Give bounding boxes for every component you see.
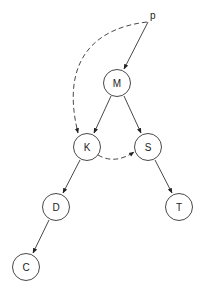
- edge-M-S: [124, 96, 141, 133]
- edge-K-S-dashed: [98, 152, 134, 159]
- node-M: M: [104, 70, 131, 97]
- pointer-label: p: [150, 10, 156, 21]
- svg-text:K: K: [84, 142, 91, 153]
- edge-M-K: [94, 96, 111, 133]
- edge-K-D: [63, 160, 80, 193]
- node-S: S: [135, 134, 162, 161]
- svg-text:S: S: [145, 142, 152, 153]
- svg-text:M: M: [113, 78, 121, 89]
- node-D: D: [43, 194, 70, 221]
- svg-text:C: C: [22, 262, 29, 273]
- svg-text:T: T: [176, 202, 182, 213]
- edge-S-T: [155, 160, 172, 193]
- node-C: C: [13, 254, 40, 281]
- edge-D-C: [33, 220, 49, 253]
- edge-p-M: [124, 22, 148, 69]
- node-K: K: [74, 134, 101, 161]
- svg-text:D: D: [52, 202, 59, 213]
- node-T: T: [166, 194, 193, 221]
- tree-diagram: p M K S D T C: [0, 0, 203, 297]
